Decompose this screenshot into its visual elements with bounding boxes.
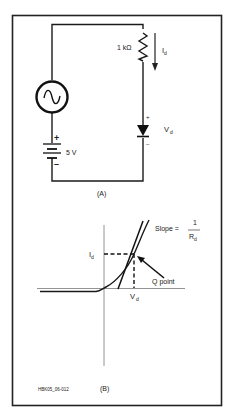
panel-b-caption: (B): [100, 385, 109, 393]
diode-voltage-label: Vd: [164, 125, 173, 135]
vd-marker-label: Vd: [130, 292, 139, 302]
panel-b-iv-graph: Id Vd Q point Slope = 1 Rd HBK05_06-012 …: [37, 219, 200, 393]
panel-a-circuit: 1 kΩ Id + – 5 V + – Vd (A): [37, 25, 174, 199]
slope-numerator: 1: [193, 219, 197, 226]
bottom-wire: [52, 138, 143, 181]
iv-curve: [40, 220, 149, 292]
current-label: Id: [162, 46, 167, 56]
resistor-label: 1 kΩ: [117, 44, 132, 51]
q-point-arrow-icon: [137, 256, 164, 278]
resistor-icon: [139, 33, 147, 61]
q-point-label: Q point: [152, 278, 175, 286]
slope-label: Slope =: [155, 225, 179, 233]
diode-icon: [137, 125, 149, 137]
diode-figure: 1 kΩ Id + – 5 V + – Vd (A): [0, 0, 229, 414]
panel-a-caption: (A): [97, 190, 106, 198]
diode-plus: +: [146, 114, 150, 120]
diode-minus: –: [146, 141, 150, 147]
battery-minus: –: [54, 159, 59, 169]
current-arrow-icon: [152, 33, 158, 71]
top-wire: [52, 25, 143, 81]
slope-denominator: Rd: [189, 233, 197, 242]
ac-source-icon: [37, 82, 68, 113]
figure-id: HBK05_06-012: [38, 387, 69, 392]
battery-plus: +: [54, 133, 59, 143]
id-marker-label: Id: [89, 250, 94, 260]
tangent-line: [118, 221, 143, 289]
battery-label: 5 V: [66, 149, 77, 156]
figure-frame: [13, 16, 222, 406]
